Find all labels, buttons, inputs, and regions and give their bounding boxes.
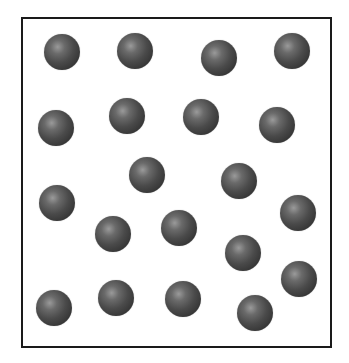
particle-sphere	[95, 216, 131, 252]
particle-sphere	[183, 99, 219, 135]
particle-sphere	[281, 261, 317, 297]
particle-sphere	[280, 195, 316, 231]
particle-sphere	[98, 280, 134, 316]
particle-sphere	[161, 210, 197, 246]
particle-sphere	[237, 295, 273, 331]
particle-sphere	[39, 185, 75, 221]
particle-sphere	[109, 98, 145, 134]
particle-sphere	[129, 157, 165, 193]
particle-sphere	[165, 281, 201, 317]
particle-sphere	[225, 235, 261, 271]
particle-sphere	[259, 107, 295, 143]
particle-sphere	[38, 110, 74, 146]
particle-sphere	[44, 34, 80, 70]
particle-sphere	[117, 33, 153, 69]
particle-sphere	[201, 40, 237, 76]
particle-sphere	[274, 33, 310, 69]
particle-sphere	[36, 290, 72, 326]
particle-sphere	[221, 163, 257, 199]
